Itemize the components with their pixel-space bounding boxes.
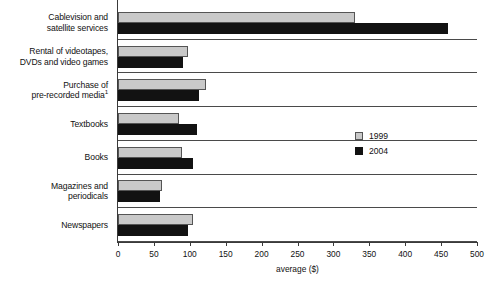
category-label-line: pre-recorded media1: [0, 90, 108, 101]
x-tick-label: 200: [247, 249, 277, 259]
x-tick: [405, 242, 406, 246]
bar-2004: [118, 225, 188, 236]
x-tick-label: 300: [318, 249, 348, 259]
plot-area: 050100150200250300350400450500 average (…: [118, 6, 477, 242]
category-label-line: Books: [0, 152, 108, 163]
x-tick-label: 0: [103, 249, 133, 259]
bar-1999: [118, 113, 179, 124]
x-tick-label: 150: [211, 249, 241, 259]
x-tick: [298, 242, 299, 246]
x-tick: [441, 242, 442, 246]
footnote-marker: 1: [105, 88, 108, 95]
bar-group: [118, 107, 477, 141]
bar-1999: [118, 12, 355, 23]
x-tick-label: 100: [175, 249, 205, 259]
category-label: Rental of videotapes,DVDs and video game…: [0, 46, 108, 67]
x-tick: [262, 242, 263, 246]
category-label-line: Magazines and: [0, 181, 108, 192]
category-label: Purchase ofpre-recorded media1: [0, 80, 108, 101]
category-label-line: periodicals: [0, 191, 108, 202]
legend-swatch-1999: [355, 132, 363, 140]
x-tick-label: 250: [283, 249, 313, 259]
bar-group: [118, 40, 477, 74]
bar-group: [118, 73, 477, 107]
legend-swatch-2004: [355, 147, 363, 155]
bar-group: [118, 208, 477, 242]
x-tick: [369, 242, 370, 246]
bar-2004: [118, 57, 183, 68]
bar-group: [118, 175, 477, 209]
chart-legend: 1999 2004: [355, 128, 388, 158]
legend-item-2004: 2004: [355, 143, 388, 158]
x-tick-label: 500: [462, 249, 489, 259]
legend-label-1999: 1999: [369, 131, 388, 141]
category-label: Cablevision andsatellite services: [0, 12, 108, 33]
bar-1999: [118, 147, 182, 158]
category-label-line: satellite services: [0, 23, 108, 34]
category-label-line: Purchase of: [0, 80, 108, 91]
x-tick: [118, 242, 119, 246]
x-tick: [190, 242, 191, 246]
x-tick: [154, 242, 155, 246]
category-label: Textbooks: [0, 119, 108, 130]
bar-1999: [118, 180, 162, 191]
bar-1999: [118, 46, 188, 57]
x-axis-title: average ($): [118, 264, 477, 274]
bar-2004: [118, 124, 197, 135]
x-tick-label: 450: [426, 249, 456, 259]
legend-label-2004: 2004: [369, 146, 388, 156]
x-tick: [226, 242, 227, 246]
x-tick-label: 50: [139, 249, 169, 259]
bar-group: [118, 141, 477, 175]
bar-1999: [118, 214, 193, 225]
bar-2004: [118, 158, 193, 169]
category-label-line: Rental of videotapes,: [0, 46, 108, 57]
category-label-line: DVDs and video games: [0, 57, 108, 68]
category-label: Newspapers: [0, 220, 108, 231]
x-tick: [333, 242, 334, 246]
x-tick-label: 350: [354, 249, 384, 259]
bar-2004: [118, 23, 448, 34]
category-label-line: Cablevision and: [0, 12, 108, 23]
bar-1999: [118, 79, 206, 90]
bar-2004: [118, 90, 199, 101]
legend-item-1999: 1999: [355, 128, 388, 143]
category-label-line: Textbooks: [0, 119, 108, 130]
category-label: Magazines andperiodicals: [0, 181, 108, 202]
category-axis-labels: Cablevision andsatellite servicesRental …: [0, 6, 113, 242]
x-tick-label: 400: [390, 249, 420, 259]
bar-group: [118, 6, 477, 40]
x-tick: [477, 242, 478, 246]
category-label: Books: [0, 152, 108, 163]
bar-2004: [118, 191, 160, 202]
category-label-line: Newspapers: [0, 220, 108, 231]
